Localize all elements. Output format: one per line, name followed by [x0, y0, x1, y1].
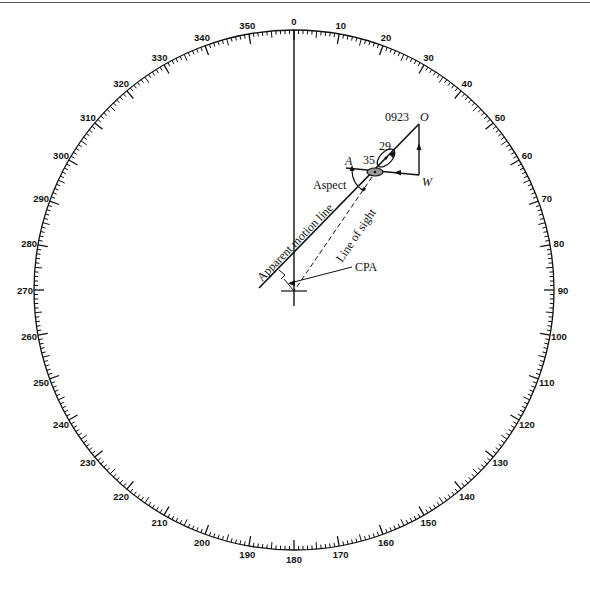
ring-tick — [546, 267, 553, 268]
ring-tick — [48, 373, 52, 374]
ring-tick — [373, 533, 374, 537]
ring-tick — [188, 52, 190, 56]
ring-tick — [40, 236, 44, 237]
ring-tick — [60, 176, 64, 178]
ring-tick — [76, 148, 79, 150]
ring-tick — [465, 480, 468, 483]
cpa-label: CPA — [355, 260, 378, 274]
ring-tick — [76, 429, 79, 431]
ring-tick — [437, 502, 439, 505]
ring-tick — [544, 236, 548, 237]
ring-tick — [40, 343, 44, 344]
ring-tick — [498, 444, 501, 446]
ring-tick — [493, 451, 496, 454]
ring-tick — [481, 113, 484, 116]
ring-tick — [439, 497, 443, 503]
ring-tick — [380, 46, 383, 55]
ring-tick — [462, 94, 465, 97]
ring-tick — [524, 402, 528, 404]
ring-tick — [104, 113, 107, 116]
ring-tick — [533, 197, 537, 198]
ring-tick — [95, 451, 103, 457]
ring-tick — [401, 54, 404, 60]
ring-tick — [530, 188, 534, 190]
ring-tick — [531, 193, 535, 195]
ring-label-180: 180 — [286, 554, 302, 565]
ring-tick — [496, 130, 499, 132]
ring-tick — [472, 103, 475, 106]
ring-tick — [548, 254, 552, 255]
ring-tick — [343, 541, 344, 545]
ring-tick — [98, 458, 101, 461]
ring-tick — [520, 410, 524, 412]
ring-tick — [522, 172, 526, 174]
ring-tick — [487, 119, 490, 122]
ring-tick — [473, 106, 478, 111]
ring-tick — [53, 193, 57, 195]
ring-tick — [455, 88, 458, 91]
ring-tick — [130, 88, 133, 91]
ring-tick — [523, 397, 529, 400]
ring-tick — [531, 386, 535, 388]
ring-tick — [426, 67, 428, 70]
ring-tick — [149, 74, 151, 77]
ring-tick — [214, 533, 215, 537]
ring-label-240: 240 — [53, 419, 69, 430]
ring-tick — [71, 156, 74, 158]
ring-tick — [45, 365, 49, 366]
ring-tick — [78, 145, 81, 147]
ring-tick — [152, 505, 154, 508]
ring-tick — [176, 58, 178, 62]
ring-tick — [249, 536, 251, 546]
ring-tick — [44, 218, 48, 219]
apparent-motion-label: Apparent motion line — [254, 201, 336, 284]
ring-tick — [95, 123, 103, 129]
ring-tick — [506, 433, 509, 435]
ring-tick — [55, 390, 59, 392]
ring-tick — [231, 538, 232, 542]
ring-tick — [513, 156, 516, 158]
ring-tick — [356, 38, 357, 42]
ring-tick — [188, 524, 190, 528]
ring-tick — [218, 41, 219, 45]
ring-label-320: 320 — [113, 78, 129, 89]
ring-tick — [334, 543, 335, 547]
ring-tick — [380, 525, 383, 534]
ring-tick — [478, 109, 481, 112]
ring-tick — [168, 63, 170, 67]
ring-tick — [538, 223, 545, 225]
ring-tick — [473, 469, 478, 474]
ring-tick — [518, 164, 522, 166]
ring-tick — [414, 516, 416, 520]
speed-label-29: 29 — [379, 139, 391, 153]
ring-tick — [530, 390, 534, 392]
ring-tick — [316, 31, 317, 38]
ring-label-30: 30 — [423, 52, 434, 63]
ring-tick — [455, 482, 461, 490]
ring-tick — [81, 435, 87, 439]
ring-tick — [377, 44, 378, 48]
ring-tick — [469, 477, 472, 480]
ring-tick — [540, 333, 550, 335]
ring-tick — [520, 168, 524, 170]
ring-label-140: 140 — [459, 491, 475, 502]
ring-tick — [107, 468, 110, 471]
arrow-left-icon — [394, 170, 401, 175]
ring-tick — [410, 518, 412, 522]
ring-label-330: 330 — [152, 52, 168, 63]
ring-tick — [523, 180, 529, 183]
ring-tick — [113, 103, 116, 106]
ring-tick — [39, 339, 43, 340]
ring-label-190: 190 — [239, 549, 255, 560]
ring-label-90: 90 — [558, 285, 569, 296]
ring-tick — [180, 520, 182, 524]
aspect-arc — [352, 170, 364, 191]
ring-tick — [38, 245, 48, 247]
ring-tick — [218, 535, 219, 539]
ring-tick — [472, 474, 475, 477]
ring-tick — [156, 70, 158, 73]
ring-tick — [448, 494, 450, 497]
ring-tick — [117, 477, 120, 480]
ring-tick — [138, 82, 140, 85]
ring-tick — [37, 330, 41, 331]
